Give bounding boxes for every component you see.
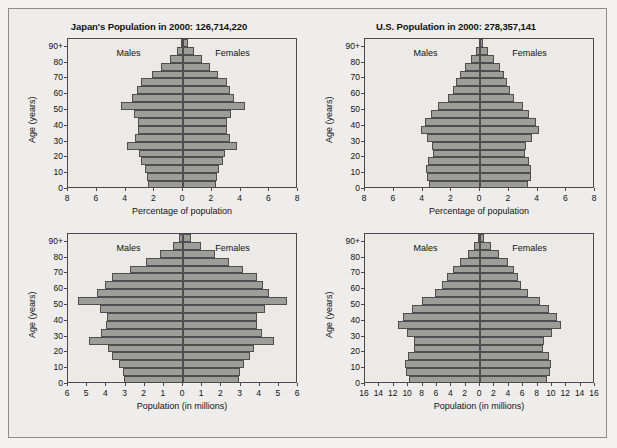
x-axis-tick-mark <box>465 383 466 386</box>
bar-japan-millions-females-20-24 <box>183 345 254 353</box>
y-axis-tick-mark <box>64 320 67 321</box>
bar-us-percent-females-60-64 <box>480 86 510 94</box>
x-axis-title: Population (in millions) <box>364 401 594 411</box>
bar-us-millions-males-20-24 <box>414 345 480 353</box>
x-axis-tick-label: 1 <box>160 388 165 398</box>
y-axis-tick-mark <box>361 257 364 258</box>
bar-us-percent-males-80-84 <box>471 55 480 63</box>
bar-us-millions-females-70-74 <box>480 266 514 274</box>
x-axis-tick-label: 3 <box>122 388 127 398</box>
x-axis-tick-label: 14 <box>374 388 383 398</box>
x-axis-tick-label: 4 <box>256 388 261 398</box>
x-axis-tick-label: 5 <box>84 388 89 398</box>
y-axis-tick-label: 60 <box>35 88 63 98</box>
bar-us-percent-males-70-74 <box>460 71 480 79</box>
bar-japan-millions-females-45-49 <box>183 305 265 313</box>
bar-japan-millions-females-80-84 <box>183 250 215 258</box>
y-axis-tick-mark <box>64 172 67 173</box>
x-axis-tick-mark <box>508 383 509 386</box>
y-axis-tick-mark <box>361 367 364 368</box>
y-axis-tick-label: 80 <box>332 252 360 262</box>
bar-japan-millions-males-10-14 <box>119 360 183 368</box>
y-axis-tick-mark <box>361 351 364 352</box>
bar-japan-millions-males-60-64 <box>105 281 183 289</box>
x-axis-tick-label: 2 <box>448 193 453 203</box>
x-axis-tick-mark <box>479 188 480 191</box>
y-axis-tick-mark <box>64 257 67 258</box>
bar-us-millions-males-65-69 <box>447 273 480 281</box>
bar-japan-millions-females-40-44 <box>183 313 257 321</box>
bar-japan-percent-males-25-29 <box>127 142 183 150</box>
x-axis-tick-label: 2 <box>208 193 213 203</box>
x-axis-tick-mark <box>594 383 595 386</box>
y-axis-tick-label: 90+ <box>332 41 360 51</box>
x-axis-tick-label: 8 <box>362 193 367 203</box>
y-axis-tick-label: 70 <box>35 267 63 277</box>
x-axis-tick-label: 8 <box>534 388 539 398</box>
bar-japan-percent-females-40-44 <box>183 118 227 126</box>
y-axis-tick-label: 20 <box>35 346 63 356</box>
x-axis-tick-mark <box>364 383 365 386</box>
bar-us-millions-males-25-29 <box>414 337 480 345</box>
bar-japan-millions-females-85-89 <box>183 242 201 250</box>
x-axis-tick-label: 4 <box>122 193 127 203</box>
x-axis-tick-label: 5 <box>275 388 280 398</box>
bar-us-millions-males-45-49 <box>412 305 480 313</box>
bar-japan-percent-males-40-44 <box>138 118 183 126</box>
bar-us-millions-females-0-4 <box>480 376 547 383</box>
x-axis-tick-label: 12 <box>561 388 570 398</box>
bar-us-millions-females-10-14 <box>480 360 551 368</box>
bar-us-percent-males-75-79 <box>465 63 480 71</box>
y-axis-tick-mark <box>361 241 364 242</box>
bar-us-millions-females-25-29 <box>480 337 544 345</box>
bar-us-percent-males-45-49 <box>431 110 480 118</box>
x-axis-tick-label: 16 <box>589 388 598 398</box>
bar-us-millions-females-45-49 <box>480 305 549 313</box>
bar-japan-millions-males-20-24 <box>108 345 183 353</box>
x-axis-tick-mark <box>422 188 423 191</box>
x-axis-tick-mark <box>537 188 538 191</box>
bar-japan-percent-males-5-9 <box>147 173 183 181</box>
x-axis-tick-label: 4 <box>103 388 108 398</box>
x-axis-tick-label: 2 <box>491 388 496 398</box>
x-axis-tick-label: 2 <box>462 388 467 398</box>
bar-us-millions-males-75-79 <box>460 258 480 266</box>
bar-japan-millions-females-55-59 <box>183 289 269 297</box>
y-axis-tick-mark <box>361 272 364 273</box>
bar-us-millions-males-10-14 <box>405 360 480 368</box>
x-axis-tick-mark <box>364 188 365 191</box>
bar-japan-percent-males-55-59 <box>132 94 183 102</box>
bar-us-percent-females-0-4 <box>480 181 528 188</box>
chart-title-japan-percent: Japan's Population in 2000: 126,714,220 <box>15 21 303 32</box>
bar-japan-percent-females-80-84 <box>183 55 202 63</box>
x-axis-tick-label: 6 <box>93 193 98 203</box>
plot-area-japan-millions <box>67 233 297 383</box>
x-axis-tick-mark <box>479 383 480 386</box>
y-axis-tick-mark <box>64 141 67 142</box>
y-axis-title: Age (years) <box>27 291 37 338</box>
x-axis-tick-label: 2 <box>141 388 146 398</box>
bar-us-percent-females-15-19 <box>480 157 529 165</box>
bar-us-millions-males-15-19 <box>408 352 480 360</box>
x-axis-tick-label: 0 <box>477 388 482 398</box>
y-axis-title: Age (years) <box>324 96 334 143</box>
x-axis-tick-label: 0 <box>180 193 185 203</box>
bar-japan-millions-females-5-9 <box>183 368 240 376</box>
y-axis-tick-label: 50 <box>35 299 63 309</box>
bar-us-percent-males-30-34 <box>427 134 480 142</box>
bar-us-millions-females-90+ <box>480 234 484 242</box>
bar-us-percent-females-35-39 <box>480 126 539 134</box>
bar-japan-percent-males-45-49 <box>134 110 183 118</box>
y-axis-tick-mark <box>64 46 67 47</box>
bar-japan-percent-males-20-24 <box>139 150 183 158</box>
bar-us-percent-females-45-49 <box>480 110 529 118</box>
y-axis-tick-mark <box>361 141 364 142</box>
y-axis-tick-mark <box>361 109 364 110</box>
y-axis-tick-mark <box>64 125 67 126</box>
bar-us-millions-females-80-84 <box>480 250 499 258</box>
plot-area-us-percent <box>364 38 594 188</box>
bar-japan-percent-females-60-64 <box>183 86 230 94</box>
y-axis-tick-mark <box>64 336 67 337</box>
bar-japan-percent-females-70-74 <box>183 71 218 79</box>
x-axis-title: Percentage of population <box>364 206 594 216</box>
